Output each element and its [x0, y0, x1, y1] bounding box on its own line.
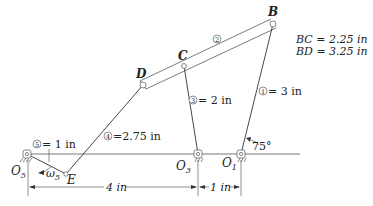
link-2-bar: [140, 19, 276, 89]
joint-D: [140, 82, 146, 88]
angle-75: 75°: [246, 137, 272, 153]
link-5-label: 5 = 1 in: [33, 138, 76, 151]
link-4-label: 4 =2.75 in: [104, 130, 161, 143]
dim-1in: 1 in: [210, 181, 231, 194]
label-B: B: [267, 5, 278, 19]
svg-text:1: 1: [261, 88, 265, 96]
svg-text:= 3 in: = 3 in: [268, 85, 302, 98]
joint-B: [270, 21, 276, 27]
ground-pivot-O3: [194, 150, 203, 162]
label-O5: O5: [11, 164, 26, 180]
ground-pivot-O1: [237, 150, 246, 162]
label-D: D: [135, 67, 147, 81]
link-1-label: 1 = 3 in: [259, 85, 302, 98]
svg-text:= 2 in: = 2 in: [198, 94, 232, 107]
joint-C: [182, 64, 187, 69]
svg-text:=2.75 in: =2.75 in: [113, 130, 161, 143]
svg-text:75°: 75°: [252, 140, 272, 153]
link-2-marker: 2: [213, 35, 221, 44]
link-3: [184, 66, 198, 154]
mechanism-diagram: B C D E O5 O3 O1 2 1 = 3 in 3 = 2 in 4 =…: [0, 0, 373, 206]
svg-text:ω5: ω5: [46, 167, 60, 182]
label-E: E: [66, 173, 76, 187]
dim-4in: 4 in: [105, 181, 127, 194]
link-3-label: 3 = 2 in: [189, 94, 232, 107]
arrowhead: [29, 185, 35, 189]
svg-text:4: 4: [106, 133, 110, 141]
svg-text:5: 5: [35, 141, 39, 149]
dim-BD: BD = 3.25 in: [295, 45, 368, 58]
svg-text:2: 2: [215, 36, 219, 44]
arrowhead: [191, 185, 197, 189]
arrowhead: [199, 185, 205, 189]
label-O3: O3: [176, 159, 191, 175]
svg-text:= 1 in: = 1 in: [42, 138, 76, 151]
svg-text:3: 3: [191, 97, 195, 105]
arrowhead: [234, 185, 240, 189]
label-O1: O1: [222, 156, 237, 172]
label-C: C: [178, 49, 188, 63]
ground-pivot-O5: [20, 150, 32, 162]
